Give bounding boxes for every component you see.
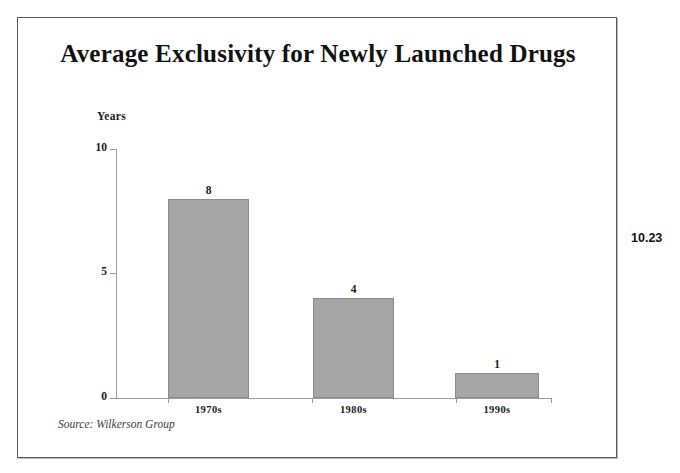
y-tick-0: 0 <box>116 398 122 399</box>
slide-frame: Average Exclusivity for Newly Launched D… <box>17 17 617 458</box>
x-tick-2 <box>312 398 313 403</box>
bar-value-1990s: 1 <box>494 358 500 370</box>
x-axis-label-1990s: 1990s <box>455 404 539 415</box>
y-tick-label-10: 10 <box>96 141 108 153</box>
bar-1990s[interactable]: 1 <box>455 373 539 398</box>
side-annotation: 10.23 <box>631 231 662 245</box>
y-tick-label-0: 0 <box>101 390 107 402</box>
bar-1970s[interactable]: 8 <box>168 199 249 398</box>
bar-value-1970s: 8 <box>206 184 212 196</box>
y-tick-10: 10 <box>116 149 122 150</box>
y-tick-5: 5 <box>116 273 122 274</box>
bar-value-1980s: 4 <box>351 283 357 295</box>
y-axis-title: Years <box>97 110 126 122</box>
x-axis-line <box>116 398 551 399</box>
bar-1980s[interactable]: 4 <box>313 298 394 398</box>
source-note: Source: Wilkerson Group <box>58 418 175 430</box>
chart-plot-area: 10 5 0 8 1970s 4 1980s 1 1990s <box>116 146 553 398</box>
x-axis-label-1980s: 1980s <box>313 404 394 415</box>
y-tick-label-5: 5 <box>101 265 107 277</box>
x-tick-3 <box>456 398 457 403</box>
x-tick-4 <box>551 398 552 403</box>
page-title: Average Exclusivity for Newly Launched D… <box>54 38 582 69</box>
x-tick-1 <box>168 398 169 403</box>
x-axis-label-1970s: 1970s <box>168 404 249 415</box>
